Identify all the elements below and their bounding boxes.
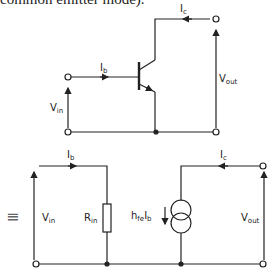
collector-wire (155, 19, 210, 60)
rin-label: Rin (84, 212, 97, 225)
circuit-diagram: Ic Ib Vin Vout Ib Ic Vin Rin hfeIb Vout (0, 0, 274, 278)
input-terminal (65, 74, 71, 80)
junction-dot-source (179, 262, 183, 266)
ib-label-top: Ib (100, 62, 108, 75)
junction-dot (154, 130, 158, 134)
output-terminal-eq (260, 163, 266, 169)
ic-label-top: Ic (180, 3, 187, 16)
vin-label-eq: Vin (42, 212, 55, 225)
output-terminal (213, 16, 219, 22)
output-ground-terminal-eq (260, 261, 266, 267)
hfe-ib-label: hfeIb (131, 210, 152, 223)
ic-label-eq: Ic (220, 149, 227, 162)
vout-label-top: Vout (219, 73, 238, 86)
output-top-wire (181, 166, 260, 201)
rin-resistor (103, 204, 111, 232)
source-circle-lower (171, 213, 191, 233)
junction-dot-rin (105, 262, 109, 266)
ib-label-eq: Ib (67, 149, 75, 162)
vin-label-top: Vin (50, 102, 63, 115)
output-ground-terminal (213, 129, 219, 135)
input-ground-terminal-eq (33, 261, 39, 267)
collector-leg (139, 60, 155, 70)
source-circle-upper (171, 200, 191, 220)
emitter-arrow (146, 88, 152, 91)
vout-label-eq: Vout (241, 212, 260, 225)
transistor-circuit (65, 16, 219, 135)
input-ground-terminal (65, 129, 71, 135)
equivalence-symbol: ≡ (6, 207, 19, 226)
input-top-wire (39, 166, 107, 204)
